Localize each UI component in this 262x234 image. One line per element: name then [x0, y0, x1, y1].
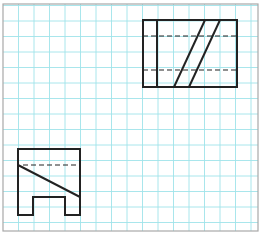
visible-edge-line [174, 20, 205, 87]
bottom-left-view [18, 149, 80, 215]
orthographic-drawing [0, 0, 262, 234]
visible-edge-line [18, 165, 80, 197]
top-right-view [143, 20, 237, 87]
grid-paper-figure [0, 0, 262, 234]
